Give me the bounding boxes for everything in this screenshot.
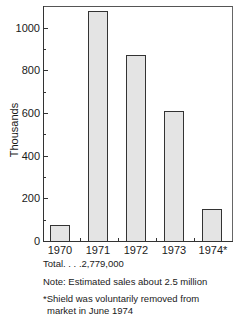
bar-1970 <box>50 225 70 242</box>
x-label-1971: 1971 <box>78 244 118 256</box>
x-label-1972: 1972 <box>116 244 156 256</box>
y-tick-400 <box>43 156 48 157</box>
footnote-line-1: *Shield was voluntarily removed from <box>43 293 199 305</box>
y-tick-200 <box>43 198 48 199</box>
bar-1974 <box>202 209 222 242</box>
x-tick <box>80 238 81 242</box>
y-tick-minor <box>43 49 46 50</box>
estimate-note: Note: Estimated sales about 2.5 million <box>43 276 207 288</box>
total-note: Total. . . .2,779,000 <box>43 258 124 270</box>
y-tick-label-200: 200 <box>22 193 40 204</box>
x-tick <box>156 238 157 242</box>
y-tick-1000 <box>43 28 48 29</box>
y-tick-0 <box>43 241 48 242</box>
y-tick-label-800: 800 <box>22 65 40 76</box>
y-tick-minor <box>43 220 46 221</box>
bar-1972 <box>126 55 146 242</box>
bar-1971 <box>88 11 108 242</box>
y-tick-minor <box>43 177 46 178</box>
x-label-1974: 1974* <box>193 244 233 256</box>
y-tick-label-1000: 1000 <box>16 23 40 34</box>
y-tick-label-400: 400 <box>22 151 40 162</box>
y-tick-600 <box>43 113 48 114</box>
x-label-1973: 1973 <box>154 244 194 256</box>
y-axis-title: Thousands <box>8 100 20 160</box>
y-axis <box>43 6 44 242</box>
y-tick-800 <box>43 70 48 71</box>
y-tick-label-600: 600 <box>22 108 40 119</box>
bar-1973 <box>164 111 184 242</box>
y-tick-minor <box>43 134 46 135</box>
x-label-1970: 1970 <box>40 244 80 256</box>
footnote-line-2: market in June 1974 <box>43 305 133 317</box>
y-tick-minor <box>43 92 46 93</box>
x-tick <box>118 238 119 242</box>
x-tick <box>194 238 195 242</box>
